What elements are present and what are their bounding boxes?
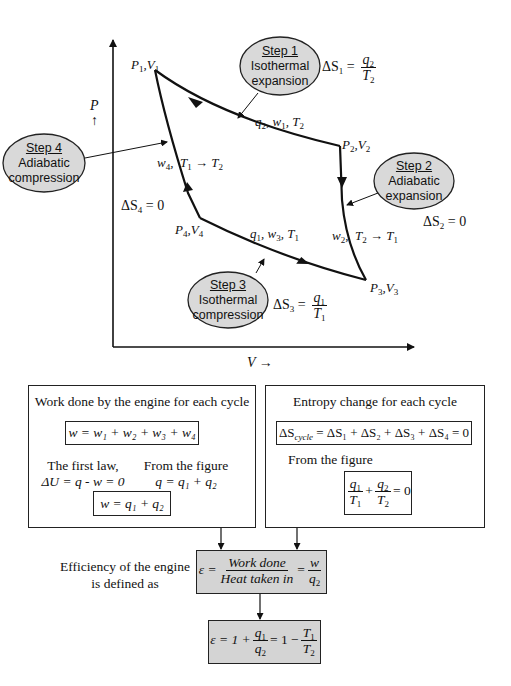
path-step2-adiabatic-expansion xyxy=(340,146,366,280)
path-label-step2: w2, T2 → T1 xyxy=(332,228,398,244)
step1-label: Step 1 Isothermal expansion xyxy=(240,44,320,89)
entropy-eq2: q1T1+q2T2= 0 xyxy=(344,476,412,507)
first-law-note: The first law, ΔU = q - w = 0 xyxy=(38,458,128,490)
x-axis-label: V → xyxy=(247,355,273,371)
point-p1-v1: P1,V1 xyxy=(131,57,159,73)
point-p2-v2: P2,V2 xyxy=(342,137,370,153)
entropy-box-heading: Entropy change for each cycle xyxy=(265,394,485,410)
work-eq1: w = w₁ + w₂ + w₃ + w₄ xyxy=(65,425,199,441)
step3-label: Step 3 Isothermal compression xyxy=(188,278,268,323)
step2-label: Step 2 Adiabatic expansion xyxy=(374,159,454,204)
path-step4-adiabatic-compression xyxy=(155,70,200,218)
path-label-step1: q2, w1, T2 xyxy=(255,114,304,130)
entropy-step1: ΔS1 = q2T2 xyxy=(322,52,379,83)
point-p4-v4: P4,V4 xyxy=(175,222,203,238)
step4-label: Step 4 Adiabatic compression xyxy=(3,141,85,186)
arrow-step2-icon xyxy=(337,177,347,188)
y-axis-label: P xyxy=(90,98,99,114)
efficiency-eq2: ε = 1 +q1q2= 1 −T1T2 xyxy=(208,625,321,656)
entropy-step4: ΔS4 = 0 xyxy=(121,198,164,214)
entropy-step2: ΔS2 = 0 xyxy=(423,214,466,230)
efficiency-label: Efficiency of the engine is defined as xyxy=(60,558,190,592)
ellipse-connectors xyxy=(85,93,378,273)
work-box-heading: Work done by the engine for each cycle xyxy=(28,394,256,410)
arrow-step3-icon xyxy=(295,256,309,266)
y-axis-arrow-icon: ↑ xyxy=(91,113,98,129)
work-eq2: w = q₁ + q₂ xyxy=(93,496,171,512)
entropy-step3: ΔS3 = q1T1 xyxy=(273,290,330,321)
point-p3-v3: P3,V3 xyxy=(370,280,398,296)
cycle-path xyxy=(155,70,366,280)
x-axis-arrow-icon: → xyxy=(259,355,273,370)
efficiency-eq1: ε =Work doneHeat taken in=wq2 xyxy=(196,555,327,586)
entropy-eq1: ΔScycle = ΔS₁ + ΔS₂ + ΔS₃ + ΔS₄ = 0 xyxy=(276,425,472,442)
path-label-step4: w4, T1 → T2 xyxy=(157,155,223,171)
path-label-step3: q1, w3, T1 xyxy=(250,226,299,242)
from-figure-note: From the figure q = q₁ + q₂ xyxy=(136,458,236,490)
entropy-from-figure-note: From the figure xyxy=(288,452,373,468)
